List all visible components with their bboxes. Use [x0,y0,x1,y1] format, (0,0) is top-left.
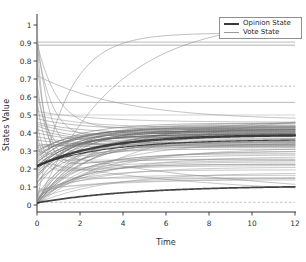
legend-label: Opinion State [243,20,291,27]
plot-canvas: 02468101200.10.20.30.40.50.60.70.80.91 [0,0,306,262]
opinion-state-curve [37,75,295,118]
y-tick-label: 1 [27,21,32,30]
y-tick-label: 0.9 [20,39,32,48]
x-tick-label: 4 [121,219,126,228]
legend-box: Opinion State Vote State [219,17,302,39]
x-tick-label: 8 [207,219,212,228]
axes [37,14,296,212]
opinion-state-curve [37,38,295,161]
opinion-state-curve [37,33,295,201]
y-tick-label: 0.8 [20,57,32,66]
y-tick-label: 0.6 [20,93,32,102]
y-tick-label: 0.3 [20,147,32,156]
y-tick-label: 0.5 [20,111,32,120]
y-tick-label: 0.1 [20,183,32,192]
figure: 02468101200.10.20.30.40.50.60.70.80.91 S… [0,0,306,262]
y-axis-label: States Value [2,68,13,182]
opinion-state-curve [37,187,295,203]
legend-item-opinion-state: Opinion State [224,20,299,27]
x-tick-label: 12 [290,219,299,228]
vote-state-line-swatch [224,32,239,33]
opinion-state-curve [37,141,295,205]
y-tick-label: 0.4 [20,129,32,138]
y-tick-label: 0.7 [20,75,32,84]
y-tick-label: 0 [27,201,32,210]
legend-label: Vote State [243,29,279,36]
y-tick-label: 0.2 [20,165,32,174]
x-tick-label: 10 [247,219,257,228]
legend-item-vote-state: Vote State [224,29,299,36]
x-tick-label: 6 [164,219,169,228]
x-tick-label: 2 [78,219,83,228]
x-axis-label: Time [37,238,295,247]
x-tick-label: 0 [35,219,40,228]
opinion-state-line-swatch [224,23,239,25]
trajectories [37,24,295,205]
